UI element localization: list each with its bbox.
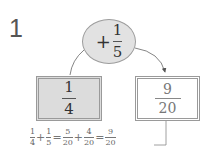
arrow-to-result-box [135,48,165,72]
result-to-equation-line [154,121,166,145]
eq-equals: = [52,131,61,144]
start-numerator: 1 [64,80,74,95]
eq-term-3: 5 20 [63,128,73,147]
fraction-bar [62,98,76,99]
eq-term-1: 1 4 [30,128,35,147]
eq-equals: = [95,131,104,144]
fraction-bar [113,41,123,42]
operator-denominator: 5 [113,45,123,60]
operator-label: + 1 5 [82,19,136,64]
operator-fraction: 1 5 [113,23,123,60]
eq-denominator: 20 [84,139,94,147]
eq-numerator: 4 [87,128,92,136]
eq-numerator: 9 [108,128,113,136]
operator-numerator: 1 [113,23,123,38]
result-denominator: 20 [159,101,177,115]
eq-denominator: 5 [46,139,51,147]
eq-numerator: 1 [30,128,35,136]
fraction-bar [155,98,181,99]
result-numerator: 9 [163,82,172,96]
eq-numerator: 5 [65,128,70,136]
eq-term-5: 9 20 [105,128,115,147]
start-value: 1 4 [36,76,102,121]
eq-plus: + [74,131,83,144]
result-fraction: 9 20 [155,82,181,115]
eq-plus: + [36,131,45,144]
eq-term-4: 4 20 [84,128,94,147]
eq-numerator: 1 [46,128,51,136]
eq-denominator: 20 [63,139,73,147]
start-denominator: 4 [64,102,74,117]
result-value: 9 20 [135,76,200,121]
eq-term-2: 1 5 [46,128,51,147]
eq-denominator: 4 [30,139,35,147]
operator-sign: + [96,31,111,52]
worked-equation: 1 4 + 1 5 = 5 20 + 4 20 = 9 20 [30,128,116,147]
start-fraction: 1 4 [62,80,76,117]
eq-denominator: 20 [105,139,115,147]
